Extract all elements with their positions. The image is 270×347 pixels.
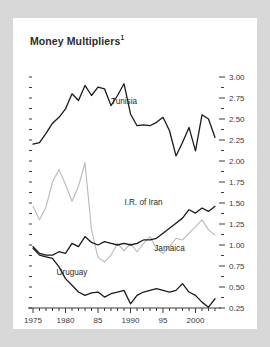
y-tick-label: 2.50 [229,115,245,124]
x-tick-label: 85 [94,316,103,325]
y-tick-label: 1.75 [229,178,245,187]
series-label-jamaica: Jamaica [154,244,185,253]
series-line-tunisia [33,84,215,156]
x-tick-label: 1980 [57,316,75,325]
money-multipliers-line-chart: 3.002.752.502.252.001.751.501.251.000.75… [13,18,257,329]
y-tick-label: 3.00 [229,73,245,82]
y-tick-label: 0.75 [229,262,245,271]
y-tick-label: 1.00 [229,241,245,250]
y-tick-label: 1.25 [229,220,245,229]
series-label-uruguay: Uruguay [57,268,89,277]
y-tick-label: 0.25 [229,304,245,313]
x-tick-label: 1990 [122,316,140,325]
x-tick-label: 95 [159,316,168,325]
series-line-uruguay [33,248,215,307]
y-tick-label: 2.25 [229,136,245,145]
series-label-i-r-of-iran: I.R. of Iran [124,198,163,207]
y-tick-label: 1.50 [229,199,245,208]
x-tick-label: 1975 [24,316,42,325]
y-tick-label: 2.00 [229,157,245,166]
series-line-i-r-of-iran [33,206,215,255]
chart-figure: Money Multipliers1 3.002.752.502.252.001… [13,18,257,329]
y-tick-label: 2.75 [229,94,245,103]
y-tick-label: 0.50 [229,283,245,292]
x-tick-label: 2000 [187,316,205,325]
series-label-tunisia: Tunisia [111,97,138,106]
